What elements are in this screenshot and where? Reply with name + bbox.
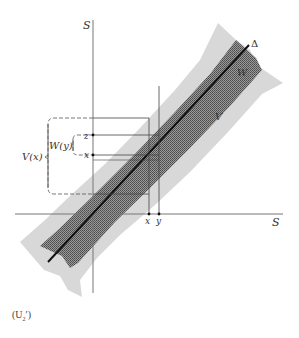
uniform-structure-diagram: S S Δ W V z x x y W(y) V(x) (0, 0, 299, 338)
y-label-horizontal: y (155, 216, 162, 226)
z-point (92, 134, 95, 137)
diagonal-label: Δ (251, 38, 258, 49)
caption-prefix: (U (12, 309, 23, 320)
inner-region-label: W (237, 67, 248, 78)
figure-caption: (U2′) (12, 309, 31, 322)
x-label-vertical: x (84, 150, 89, 160)
wy-bracket (73, 135, 93, 155)
vx-label: V(x) (22, 151, 43, 162)
wy-label: W(y) (49, 140, 73, 151)
diagonal-line (48, 45, 249, 262)
z-label: z (83, 131, 89, 141)
vertical-axis-label: S (83, 19, 91, 32)
caption-suffix: ′) (26, 309, 32, 320)
horizontal-axis-label: S (272, 216, 280, 229)
y-point-horizontal (158, 213, 161, 216)
x-point-horizontal (148, 213, 151, 216)
x-label-horizontal: x (145, 216, 150, 226)
x-point-vertical (92, 154, 95, 157)
